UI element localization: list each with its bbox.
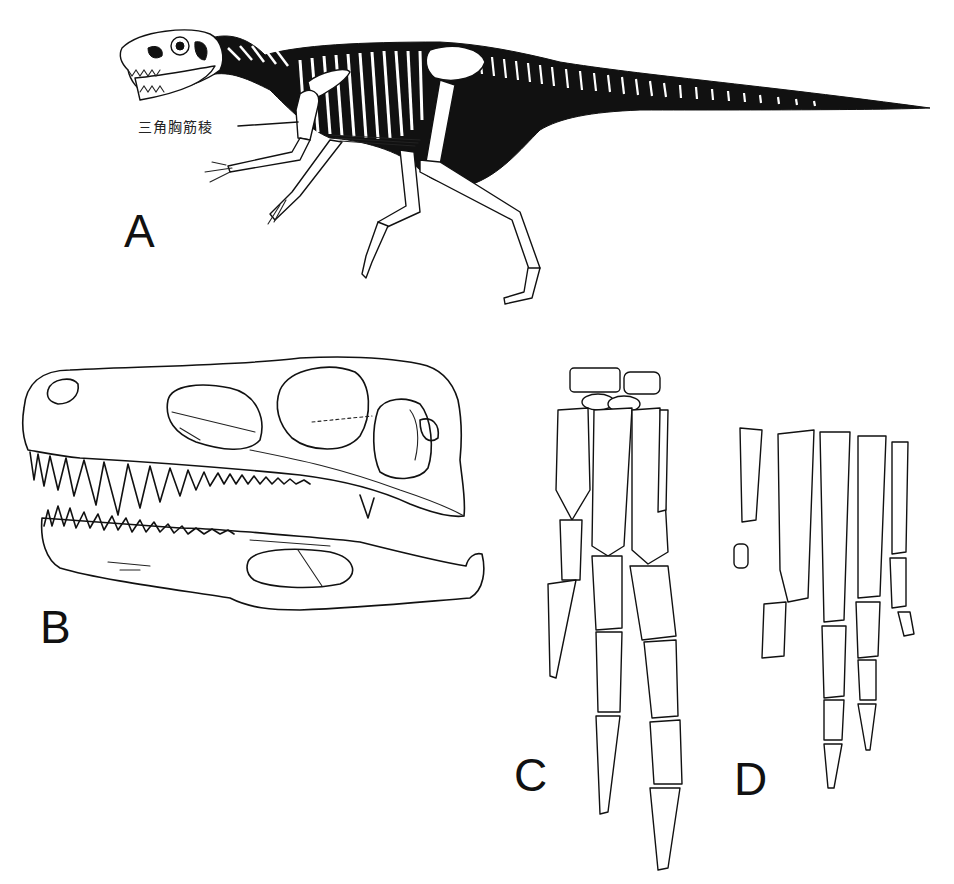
digit-4-metacarpal xyxy=(658,410,668,512)
mandibular-fenestra xyxy=(247,549,353,587)
metatarsal-1 xyxy=(740,428,762,522)
skull-illustration xyxy=(0,340,500,660)
lateral-temporal-fenestra xyxy=(374,399,432,478)
digit-3-ungual xyxy=(650,788,680,870)
mandible xyxy=(42,518,484,610)
antorbital-fenestra xyxy=(167,385,262,449)
panel-letter-c: C xyxy=(514,752,547,798)
carpal xyxy=(624,372,660,394)
panel-a-skeleton: 三角胸筋稜 A xyxy=(0,0,954,320)
metatarsal-3 xyxy=(820,432,850,622)
panel-d-pes: D xyxy=(720,420,940,840)
deltopectoral-crest-label: 三角胸筋稜 xyxy=(138,116,213,136)
panel-letter-d: D xyxy=(734,756,767,802)
digit-2-ungual xyxy=(596,716,620,814)
panel-b-skull: B xyxy=(0,340,500,660)
orbit xyxy=(277,367,368,449)
callout-leader-line xyxy=(238,122,298,126)
manus-illustration xyxy=(520,360,690,880)
digit-4-ungual xyxy=(858,704,876,750)
humerus xyxy=(296,90,319,140)
digit-1-phalanx xyxy=(560,520,582,580)
digit-1-metacarpal xyxy=(556,408,590,520)
metatarsal-5 xyxy=(892,442,908,554)
digit-3-ungual xyxy=(824,744,842,788)
skeleton-illustration xyxy=(0,0,954,320)
metatarsal-2 xyxy=(778,430,814,602)
upper-teeth xyxy=(30,452,310,515)
digit-2-metacarpal xyxy=(592,408,632,556)
digit-1-ungual xyxy=(548,580,576,678)
panel-letter-b: B xyxy=(40,604,71,650)
panel-letter-a: A xyxy=(124,208,155,254)
cranium-outline xyxy=(23,357,465,516)
metatarsal-4 xyxy=(858,436,886,598)
external-naris xyxy=(47,379,78,404)
carpal xyxy=(570,368,620,392)
panel-c-manus: C xyxy=(520,360,690,880)
